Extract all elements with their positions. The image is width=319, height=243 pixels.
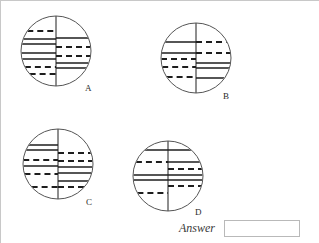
answer-label: Answer [179, 221, 215, 236]
circle-figure-b[interactable] [158, 20, 234, 96]
circle-figure-c[interactable] [20, 126, 96, 202]
answer-input[interactable] [224, 220, 300, 237]
figure-label-a: A [85, 83, 92, 93]
figure-label-b: B [223, 91, 229, 101]
circle-figure-d[interactable] [130, 138, 206, 214]
answer-row: Answer [179, 220, 300, 237]
figure-label-c: C [86, 197, 92, 207]
figure-group: ABCD [1, 1, 319, 243]
puzzle-page: ABCD Answer [0, 0, 319, 243]
circle-figure-a[interactable] [18, 13, 94, 89]
figure-label-d: D [195, 207, 202, 217]
